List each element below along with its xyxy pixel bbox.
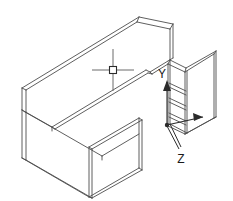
pedestal-right	[168, 51, 216, 134]
ucs-y-label: Y	[158, 67, 166, 81]
ucs-z-axis	[167, 124, 181, 149]
x-arrowhead	[193, 113, 203, 121]
ucs-z-label: Z	[177, 152, 184, 166]
desk-geometry	[22, 17, 216, 198]
crosshair-pickbox[interactable]	[110, 67, 117, 74]
isometric-desk-drawing: Y Z	[0, 0, 233, 201]
worktop-top-surface	[22, 17, 173, 136]
ucs-y-node	[165, 87, 169, 91]
drawer-fronts	[169, 83, 186, 125]
cad-drawing-canvas[interactable]: Y Z	[0, 0, 233, 201]
